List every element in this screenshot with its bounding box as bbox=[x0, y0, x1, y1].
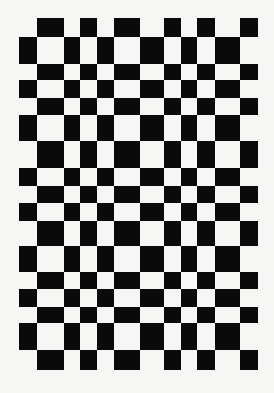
dark-square bbox=[164, 186, 181, 203]
dark-square bbox=[80, 350, 97, 370]
dark-square bbox=[197, 186, 215, 203]
dark-square bbox=[64, 203, 80, 221]
dark-square bbox=[114, 307, 140, 323]
dark-square bbox=[240, 221, 258, 246]
dark-square bbox=[114, 272, 140, 289]
dark-square bbox=[64, 37, 80, 64]
dark-square bbox=[164, 350, 181, 370]
dark-square bbox=[140, 246, 164, 272]
dark-square bbox=[80, 141, 97, 168]
dark-square bbox=[240, 272, 258, 289]
dark-square bbox=[64, 168, 80, 186]
dark-square bbox=[80, 186, 97, 203]
dark-square bbox=[97, 80, 114, 98]
dark-square bbox=[164, 141, 181, 168]
dark-square bbox=[164, 307, 181, 323]
dark-square bbox=[140, 168, 164, 186]
dark-square bbox=[97, 323, 114, 350]
dark-square bbox=[181, 289, 197, 307]
dark-square bbox=[114, 350, 140, 370]
dark-square bbox=[80, 221, 97, 246]
dark-square bbox=[80, 272, 97, 289]
dark-square bbox=[37, 221, 64, 246]
dark-square bbox=[80, 307, 97, 323]
dark-square bbox=[164, 221, 181, 246]
checkerboard-pattern bbox=[0, 0, 274, 393]
dark-square bbox=[64, 323, 80, 350]
dark-square bbox=[181, 323, 197, 350]
dark-square bbox=[215, 115, 240, 141]
dark-square bbox=[164, 18, 181, 37]
dark-square bbox=[80, 64, 97, 80]
dark-square bbox=[181, 246, 197, 272]
dark-square bbox=[37, 307, 64, 323]
dark-square bbox=[240, 18, 258, 37]
dark-square bbox=[240, 64, 258, 80]
dark-square bbox=[140, 289, 164, 307]
dark-square bbox=[64, 246, 80, 272]
dark-square bbox=[114, 141, 140, 168]
dark-square bbox=[97, 203, 114, 221]
dark-square bbox=[140, 115, 164, 141]
dark-square bbox=[37, 64, 64, 80]
dark-square bbox=[64, 115, 80, 141]
dark-square bbox=[164, 98, 181, 115]
dark-square bbox=[37, 141, 64, 168]
dark-square bbox=[140, 203, 164, 221]
dark-square bbox=[215, 323, 240, 350]
dark-square bbox=[181, 80, 197, 98]
dark-square bbox=[80, 98, 97, 115]
dark-square bbox=[19, 246, 37, 272]
dark-square bbox=[114, 64, 140, 80]
dark-square bbox=[140, 80, 164, 98]
dark-square bbox=[37, 350, 64, 370]
dark-square bbox=[215, 246, 240, 272]
dark-square bbox=[197, 307, 215, 323]
dark-square bbox=[37, 98, 64, 115]
dark-square bbox=[37, 18, 64, 37]
dark-square bbox=[164, 64, 181, 80]
dark-square bbox=[181, 168, 197, 186]
dark-square bbox=[181, 203, 197, 221]
dark-square bbox=[240, 98, 258, 115]
dark-square bbox=[181, 37, 197, 64]
dark-square bbox=[140, 323, 164, 350]
dark-square bbox=[114, 186, 140, 203]
dark-square bbox=[97, 289, 114, 307]
dark-square bbox=[19, 203, 37, 221]
dark-square bbox=[114, 98, 140, 115]
dark-square bbox=[64, 289, 80, 307]
dark-square bbox=[80, 18, 97, 37]
dark-square bbox=[181, 115, 197, 141]
dark-square bbox=[37, 272, 64, 289]
dark-square bbox=[197, 98, 215, 115]
dark-square bbox=[114, 221, 140, 246]
dark-square bbox=[64, 80, 80, 98]
dark-square bbox=[240, 307, 258, 323]
dark-square bbox=[197, 64, 215, 80]
dark-square bbox=[19, 168, 37, 186]
dark-square bbox=[215, 203, 240, 221]
dark-square bbox=[197, 18, 215, 37]
dark-square bbox=[240, 141, 258, 168]
dark-square bbox=[240, 350, 258, 370]
dark-square bbox=[215, 289, 240, 307]
dark-square bbox=[97, 246, 114, 272]
dark-square bbox=[19, 115, 37, 141]
dark-square bbox=[114, 18, 140, 37]
dark-square bbox=[140, 37, 164, 64]
dark-square bbox=[97, 37, 114, 64]
dark-square bbox=[37, 186, 64, 203]
dark-square bbox=[164, 272, 181, 289]
dark-square bbox=[97, 168, 114, 186]
dark-square bbox=[197, 272, 215, 289]
dark-square bbox=[197, 141, 215, 168]
dark-square bbox=[97, 115, 114, 141]
dark-square bbox=[19, 80, 37, 98]
dark-square bbox=[197, 221, 215, 246]
dark-square bbox=[240, 186, 258, 203]
dark-square bbox=[215, 37, 240, 64]
dark-square bbox=[215, 168, 240, 186]
dark-square bbox=[19, 289, 37, 307]
dark-square bbox=[19, 323, 37, 350]
